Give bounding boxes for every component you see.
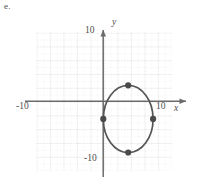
y-axis-name-label: y — [112, 17, 116, 27]
y-axis-max-tick-label: 10 — [85, 25, 95, 35]
coordinate-plane-graph — [0, 0, 198, 177]
figure-container: e. 10 y — [0, 0, 198, 177]
x-axis-name-label: x — [174, 103, 178, 113]
point-bottom-vertex — [125, 149, 131, 155]
point-top-vertex — [125, 82, 131, 88]
y-axis-min-tick-label: -10 — [84, 153, 97, 163]
x-axis-max-tick-label: 10 — [156, 101, 166, 111]
point-left-vertex — [100, 116, 106, 122]
x-axis-arrowhead — [180, 98, 187, 104]
x-axis-min-tick-label: -10 — [16, 101, 29, 111]
point-right-vertex — [150, 116, 156, 122]
